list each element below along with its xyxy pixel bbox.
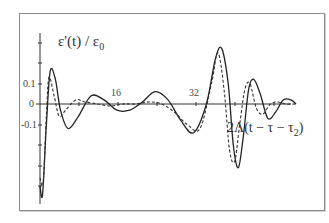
x-axis-label: 2Λ(t − τ − τ2)	[227, 120, 303, 138]
chart-plot	[0, 0, 329, 223]
x-tick-label-16: 16	[111, 87, 121, 98]
y-tick-label-0.1: 0.1	[23, 78, 36, 89]
x-tick-label-32: 32	[189, 87, 199, 98]
y-tick-label-0: 0	[29, 98, 34, 109]
y-tick-label-neg0.1: -0.1	[21, 119, 37, 130]
y-axis-label: ε'(t) / ε0	[58, 33, 104, 52]
